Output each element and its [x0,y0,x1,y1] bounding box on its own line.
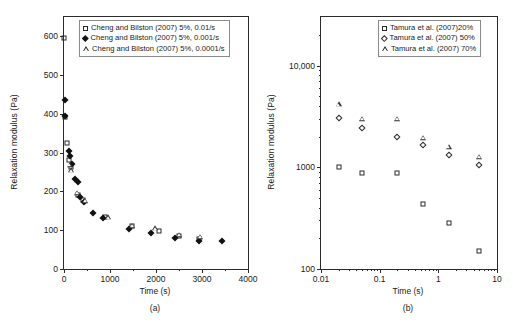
x-axis-minor-tick [87,269,88,271]
data-point [64,141,69,146]
panel-a-plot-area: Cheng and Bilston (2007) 5%, 0.01/s Chen… [63,16,249,270]
x-axis-tick-label: 4000 [239,274,258,284]
y-axis-minor-tick [319,183,321,184]
x-axis-tick [438,269,439,273]
x-axis-minor-tick [397,269,398,271]
legend-label: Tamura et al. (2007) 50% [390,33,475,43]
y-axis-tick-label: 100 [301,264,315,274]
x-axis-tick [202,269,203,273]
y-axis-minor-tick [319,119,321,120]
x-axis-minor-tick [491,269,492,271]
data-point [360,170,365,175]
y-axis-tick-label: 400 [44,109,58,119]
x-axis-minor-tick [456,269,457,271]
x-axis-tick-label: 0.1 [374,274,386,284]
data-point [152,226,158,231]
data-point [197,234,203,239]
panel-b-x-axis-label: Time (s) [320,286,496,296]
panel-b-caption: (b) [320,303,496,313]
x-axis-tick [110,269,111,273]
y-axis-minor-tick [319,75,321,76]
data-point [476,154,482,159]
y-axis-minor-tick [319,88,321,89]
data-point [62,36,67,41]
data-point [420,142,427,149]
x-axis-tick-label: 2000 [147,274,166,284]
x-axis-tick [497,269,498,273]
x-axis-minor-tick [436,269,437,271]
data-point [335,114,342,121]
y-axis-tick-label: 300 [44,148,58,158]
y-axis-tick [60,230,64,231]
data-point [394,116,400,121]
legend-item: Cheng and Bilston (2007) 5%, 0.001/s [83,33,225,43]
panel-a-legend: Cheng and Bilston (2007) 5%, 0.01/s Chen… [79,20,230,57]
x-axis-minor-tick [488,269,489,271]
x-axis-tick-label: 1 [436,274,441,284]
x-axis-minor-tick [339,269,340,271]
x-axis-minor-tick [133,269,134,271]
x-axis-minor-tick [349,269,350,271]
x-axis-minor-tick [377,269,378,271]
y-axis-tick-label: 1000 [296,162,315,172]
open-square-marker-icon [83,26,88,31]
data-point [358,124,365,131]
x-axis-minor-tick [367,269,368,271]
y-axis-minor-tick [319,190,321,191]
data-point [420,135,426,140]
legend-item: Tamura et al. (2007) 50% [382,33,476,43]
x-axis-minor-tick [425,269,426,271]
data-point [176,232,182,237]
y-axis-tick-label: 500 [44,70,58,80]
legend-label: Tamura et al. (2007) 70% [391,44,476,54]
panel-b: Relaxation modulus (Pa) Tamura et al. (2… [257,0,513,331]
x-axis-minor-tick [466,269,467,271]
data-point [148,230,155,237]
x-axis-minor-tick [429,269,430,271]
panel-a-x-axis-label: Time (s) [63,286,247,296]
legend-item: Tamura et al. (2007) 70% [382,44,476,54]
x-axis-tick-label: 0.01 [313,274,330,284]
y-axis-minor-tick [319,198,321,199]
panel-a: Relaxation modulus (Pa) Cheng and Bilsto… [0,0,256,331]
x-axis-tick [380,269,381,273]
data-point [446,220,451,225]
y-axis-tick-label: 0 [53,264,58,274]
x-axis-minor-tick [484,269,485,271]
figure: Relaxation modulus (Pa) Cheng and Bilsto… [0,0,513,331]
x-axis-minor-tick [494,269,495,271]
y-axis-minor-tick [319,70,321,71]
data-point [336,164,341,169]
y-axis-minor-tick [319,172,321,173]
data-point [61,96,68,103]
x-axis-minor-tick [421,269,422,271]
legend-item: Cheng and Bilston (2007) 5%, 0.01/s [83,23,225,33]
y-axis-minor-tick [319,238,321,239]
legend-label: Cheng and Bilston (2007) 5%, 0.01/s [91,23,215,33]
y-axis-minor-tick [319,96,321,97]
y-axis-tick [60,191,64,192]
open-triangle-marker-icon [382,46,388,51]
legend-label: Tamura et al. (2007)20% [390,23,473,33]
data-point [359,116,365,121]
x-axis-minor-tick [225,269,226,271]
x-axis-minor-tick [362,269,363,271]
data-point [67,152,74,159]
data-point [476,161,483,168]
x-axis-minor-tick [433,269,434,271]
data-point [218,238,225,245]
x-axis-minor-tick [479,269,480,271]
x-axis-minor-tick [415,269,416,271]
x-axis-tick-label: 0 [62,274,67,284]
data-point [336,102,342,107]
data-point [445,151,452,158]
data-point [477,249,482,254]
x-axis-minor-tick [356,269,357,271]
data-point [74,190,80,195]
x-axis-minor-tick [179,269,180,271]
y-axis-tick-label: 200 [44,186,58,196]
x-axis-tick [248,269,249,273]
y-axis-minor-tick [319,81,321,82]
data-point [129,223,135,228]
data-point [82,198,88,203]
